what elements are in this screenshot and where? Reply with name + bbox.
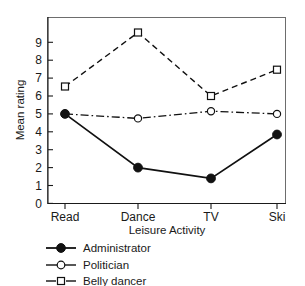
legend-marker-filled-circle (57, 244, 66, 253)
series-politician-line (65, 111, 277, 118)
series-administrator (61, 110, 282, 183)
data-point-politician-tv (207, 108, 214, 115)
y-tick-label-7: 7 (35, 71, 42, 85)
legend-item-administrator[interactable]: Administrator (46, 242, 151, 254)
x-axis-title: Leisure Activity (129, 224, 206, 236)
y-tick-label-6: 6 (35, 89, 42, 103)
line-chart: 0 1 2 3 4 5 6 7 8 9 Read Dance TV Ski Le… (0, 0, 305, 286)
data-point-admin-ski (273, 130, 282, 139)
y-tick-label-2: 2 (35, 161, 42, 175)
data-point-admin-dance (134, 163, 143, 172)
legend-label-belly-dancer: Belly dancer (83, 275, 146, 286)
data-point-politician-ski (273, 110, 280, 117)
legend-item-belly-dancer[interactable]: Belly dancer (46, 275, 146, 286)
x-tick-label-dance: Dance (121, 210, 156, 224)
x-tick-label-ski: Ski (269, 210, 286, 224)
series-politician (61, 108, 280, 122)
plot-frame (48, 18, 286, 204)
x-tick-label-tv: TV (203, 210, 218, 224)
data-point-politician-dance (134, 115, 141, 122)
y-tick-label-3: 3 (35, 143, 42, 157)
series-belly-dancer (62, 29, 281, 100)
legend-marker-open-circle (57, 261, 65, 269)
y-tick-label-1: 1 (35, 179, 42, 193)
y-tick-label-8: 8 (35, 53, 42, 67)
x-tick-label-read: Read (51, 210, 80, 224)
y-tick-label-5: 5 (35, 107, 42, 121)
x-tick-marks (65, 204, 277, 210)
data-point-admin-read (61, 110, 70, 119)
data-point-belly-read (62, 83, 69, 90)
data-point-belly-dance (135, 29, 142, 36)
chart-legend: Administrator Politician Belly dancer (46, 242, 151, 286)
data-point-belly-tv (208, 93, 215, 100)
data-point-admin-tv (207, 174, 216, 183)
legend-marker-open-square (58, 278, 65, 285)
y-tick-label-0: 0 (35, 197, 42, 211)
y-tick-label-4: 4 (35, 125, 42, 139)
y-tick-label-9: 9 (35, 36, 42, 50)
legend-label-politician: Politician (83, 259, 129, 271)
legend-label-administrator: Administrator (83, 242, 151, 254)
series-administrator-line (65, 114, 277, 178)
y-tick-marks (48, 42, 53, 203)
y-axis-title: Mean rating (14, 80, 26, 141)
data-point-belly-ski (274, 66, 281, 73)
legend-item-politician[interactable]: Politician (46, 259, 129, 271)
series-belly-dancer-line (65, 33, 277, 97)
